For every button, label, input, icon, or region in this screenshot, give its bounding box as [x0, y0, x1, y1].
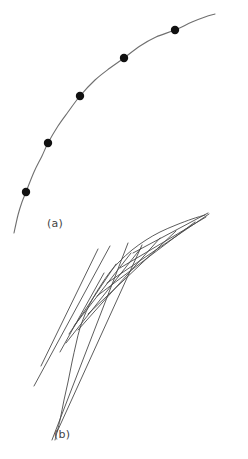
data-point-marker: [76, 92, 84, 100]
data-point-marker: [44, 139, 52, 147]
figure-canvas: [0, 0, 248, 459]
panel-a-label: (a): [47, 217, 63, 230]
data-point-marker: [22, 188, 30, 196]
data-point-marker: [120, 54, 128, 62]
data-point-marker: [171, 26, 179, 34]
figure-root: (a) (b): [0, 0, 248, 459]
panel-b-label: (b): [54, 428, 70, 441]
figure-background: [0, 0, 248, 459]
